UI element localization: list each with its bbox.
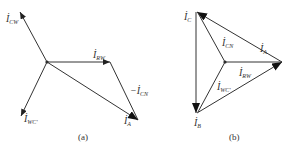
caption-a: (a) [78, 132, 88, 142]
label-neg-i-cn: −İCN [130, 85, 149, 97]
label-i-cn: İCN [221, 37, 234, 49]
edge-a-to-c [197, 12, 282, 62]
phasor-diagrams: İCW İRW −İCN İA İWC' (a) İC İCN İA İRW İ… [0, 0, 290, 150]
label-i-rw: İRW [92, 49, 106, 61]
label-i-rw-b: İRW [238, 67, 252, 79]
label-i-wc: İWC' [23, 113, 38, 125]
label-i-b: İB [193, 117, 201, 129]
label-i-a-b: İA [259, 43, 267, 55]
label-i-a: İA [123, 115, 131, 127]
vector-i-cw [20, 12, 47, 62]
figure-b: İC İCN İA İRW İWC' İB (b) [183, 11, 282, 142]
caption-b: (b) [229, 132, 240, 142]
label-i-c: İC [183, 11, 192, 23]
label-i-wc-b: İWC' [216, 81, 231, 93]
vector-i-wc [21, 62, 47, 116]
label-i-cw: İCW [5, 13, 19, 25]
figure-a: İCW İRW −İCN İA İWC' (a) [5, 12, 149, 142]
